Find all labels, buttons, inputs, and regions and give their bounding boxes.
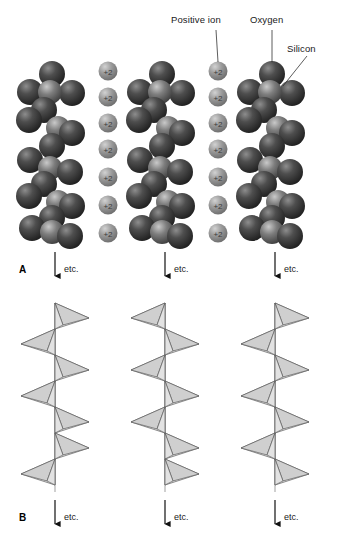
svg-text:+2: +2 — [103, 230, 113, 239]
positive-ion: +2 — [209, 88, 228, 107]
svg-text:+2: +2 — [103, 202, 113, 211]
tetra-chain-1 — [21, 303, 89, 492]
svg-text:+2: +2 — [213, 202, 223, 211]
positive-ion-column-1: +2 +2 +2 +2 +2 +2 +2 — [99, 62, 118, 243]
positive-ion: +2 — [209, 196, 228, 215]
panel-b-tetrahedra-chains — [21, 303, 309, 524]
silicon-label: Silicon — [287, 43, 316, 54]
sphere-chain-3 — [236, 61, 305, 249]
etc-label: etc. — [174, 512, 189, 522]
silicate-structure-figure: +2 +2 +2 +2 +2 +2 +2 +2 +2 +2 +2 +2 +2 +… — [0, 0, 341, 546]
tetra-chain-2 — [131, 303, 199, 492]
panel-a-letter: A — [19, 264, 26, 275]
svg-text:+2: +2 — [213, 68, 223, 77]
svg-text:+2: +2 — [213, 94, 223, 103]
sphere-chain-1 — [16, 61, 85, 249]
svg-text:+2: +2 — [103, 146, 113, 155]
svg-text:+2: +2 — [213, 146, 223, 155]
svg-text:+2: +2 — [213, 230, 223, 239]
svg-text:+2: +2 — [103, 174, 113, 183]
etc-label: etc. — [284, 264, 299, 274]
oxygen-label: Oxygen — [250, 14, 283, 25]
positive-ion: +2 — [99, 114, 118, 133]
svg-text:+2: +2 — [103, 94, 113, 103]
positive-ion: +2 — [99, 224, 118, 243]
svg-text:+2: +2 — [103, 120, 113, 129]
etc-label: etc. — [64, 264, 79, 274]
positive-ion: +2 — [99, 62, 118, 81]
svg-text:+2: +2 — [213, 120, 223, 129]
positive-ion-column-2: +2 +2 +2 +2 +2 +2 +2 — [209, 62, 228, 243]
etc-label: etc. — [64, 512, 79, 522]
positive-ion: +2 — [209, 140, 228, 159]
positive-ion: +2 — [99, 140, 118, 159]
svg-text:+2: +2 — [213, 174, 223, 183]
panel-b-letter: B — [19, 512, 26, 523]
tetra-chain-3 — [241, 303, 309, 492]
positive-ion: +2 — [209, 114, 228, 133]
positive-ion: +2 — [99, 88, 118, 107]
positive-ion: +2 — [209, 168, 228, 187]
positive-ion-leader-line — [216, 30, 218, 62]
sphere-chain-2 — [126, 61, 195, 249]
positive-ion-label: Positive ion — [171, 14, 221, 25]
positive-ion: +2 — [209, 224, 228, 243]
positive-ion: +2 — [209, 62, 228, 81]
svg-text:+2: +2 — [103, 68, 113, 77]
positive-ion: +2 — [99, 168, 118, 187]
etc-label: etc. — [174, 264, 189, 274]
panel-a-sphere-chains: +2 +2 +2 +2 +2 +2 +2 +2 +2 +2 +2 +2 +2 +… — [16, 30, 307, 276]
positive-ion: +2 — [99, 196, 118, 215]
etc-label: etc. — [284, 512, 299, 522]
